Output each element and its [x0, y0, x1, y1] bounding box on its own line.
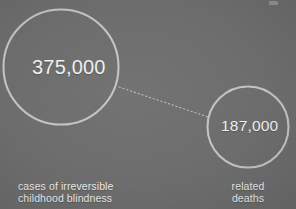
bubble-small-value: 187,000	[221, 118, 278, 134]
bubble-infographic: 375,000 187,000 cases of irreversible ch…	[0, 0, 296, 209]
bubble-chart-graphic	[0, 0, 296, 209]
corner-artifact-mark	[269, 1, 278, 5]
bubble-large-caption-line-1: cases of irreversible	[18, 180, 158, 192]
bubble-large-value: 375,000	[32, 57, 106, 77]
bubble-connector-line	[119, 87, 208, 117]
bubble-large-caption: cases of irreversible childhood blindnes…	[18, 180, 158, 204]
bubble-small-caption: related deaths	[198, 180, 296, 204]
bubble-large-caption-line-2: childhood blindness	[18, 192, 158, 204]
bubble-small-caption-line-2: deaths	[198, 192, 296, 204]
bubble-small-caption-line-1: related	[198, 180, 296, 192]
